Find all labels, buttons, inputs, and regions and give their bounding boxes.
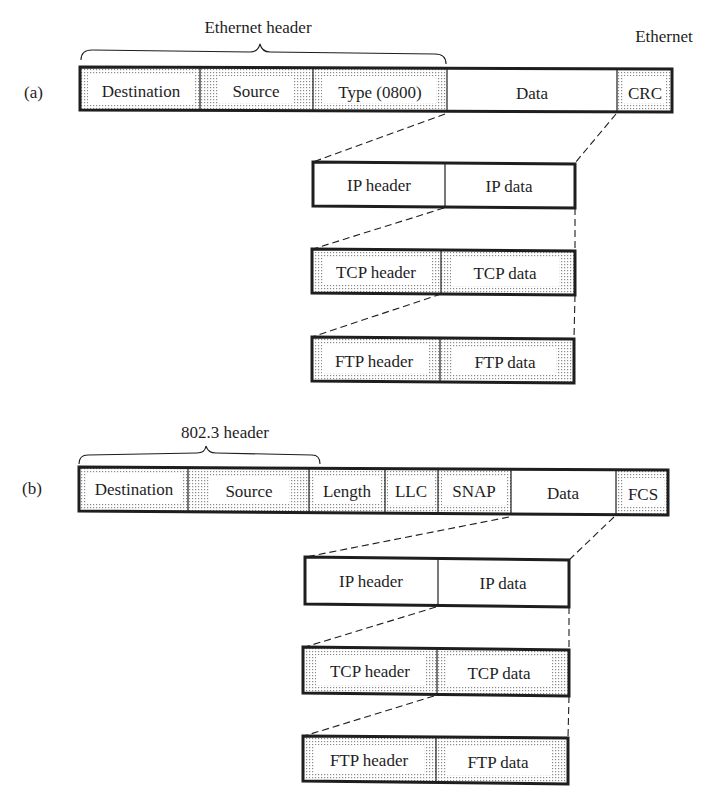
encapsulation-diagram: (a) Ethernet header Ethernet Destination… <box>0 0 712 805</box>
field-crc-label: CRC <box>628 84 662 103</box>
tcp-segment-b: TCP header TCP data <box>303 647 569 696</box>
ftp-data-label: FTP data <box>467 753 529 772</box>
ip-header-label: IP header <box>347 176 411 195</box>
field-source-label: Source <box>232 82 279 101</box>
ip-packet-b: IP header IP data <box>305 557 569 607</box>
ftp-data-a: FTP header FTP data <box>312 337 574 383</box>
part-a: (a) Ethernet header Ethernet Destination… <box>24 18 693 383</box>
ethernet-header-brace <box>81 44 446 64</box>
field-length-label: Length <box>323 482 372 501</box>
field-destination-label: Destination <box>95 480 174 499</box>
ftp-header-label: FTP header <box>330 751 409 770</box>
tcp-data-label: TCP data <box>473 264 537 283</box>
field-llc-label: LLC <box>395 482 427 501</box>
part-b: (b) 802.3 header Destination S <box>22 423 668 784</box>
tcp-segment-a: TCP header TCP data <box>312 249 575 295</box>
ieee-802-3-header-brace <box>79 446 320 464</box>
ip-packet-a: IP header IP data <box>313 162 575 208</box>
field-snap-label: SNAP <box>452 482 495 501</box>
ieee-802-3-header-caption: 802.3 header <box>181 423 269 442</box>
tcp-data-label: TCP data <box>467 664 531 683</box>
ftp-data-b: FTP header FTP data <box>303 736 568 784</box>
tcp-header-label: TCP header <box>330 662 410 681</box>
part-a-label: (a) <box>24 83 43 102</box>
ip-data-label: IP data <box>479 574 527 593</box>
part-b-label: (b) <box>22 479 42 498</box>
ieee-802-3-frame: Destination Source Length LLC SNAP Data … <box>79 467 668 515</box>
ethernet-header-caption: Ethernet header <box>204 18 311 37</box>
field-source-label: Source <box>225 482 272 501</box>
ip-header-label: IP header <box>339 572 403 591</box>
tcp-header-label: TCP header <box>336 263 416 282</box>
expansion-lines-b <box>304 517 614 738</box>
field-fcs-label: FCS <box>628 485 658 504</box>
ftp-data-label: FTP data <box>474 353 536 372</box>
field-data-label: Data <box>547 484 580 503</box>
ethernet-trailer-caption: Ethernet <box>635 27 693 46</box>
ethernet-frame: Destination Source Type (0800) Data CRC <box>80 67 672 112</box>
field-type-label: Type (0800) <box>338 83 421 102</box>
field-destination-label: Destination <box>102 82 181 101</box>
ftp-header-label: FTP header <box>335 352 414 371</box>
field-data-label: Data <box>516 84 549 103</box>
expansion-lines-a <box>312 114 616 338</box>
ip-data-label: IP data <box>485 177 533 196</box>
